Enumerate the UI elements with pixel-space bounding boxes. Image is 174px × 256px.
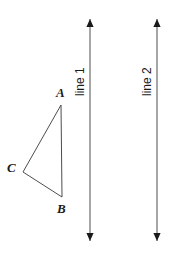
line-1-group [86, 19, 93, 241]
line-1-arrow-bottom-icon [86, 233, 93, 241]
figure-svg [0, 0, 174, 256]
line-2-arrow-top-icon [153, 19, 160, 27]
vertex-label-a: A [56, 86, 65, 99]
line-1-arrow-top-icon [86, 19, 93, 27]
geometry-figure: A B C line 1 line 2 [0, 0, 174, 256]
triangle-outline [23, 105, 62, 197]
line-2-arrow-bottom-icon [153, 233, 160, 241]
line-1-label: line 1 [74, 67, 86, 96]
vertex-label-c: C [7, 161, 16, 174]
triangle-ABC [23, 105, 62, 197]
line-2-group [153, 19, 160, 241]
vertex-label-b: B [57, 202, 66, 215]
line-2-label: line 2 [141, 67, 153, 96]
